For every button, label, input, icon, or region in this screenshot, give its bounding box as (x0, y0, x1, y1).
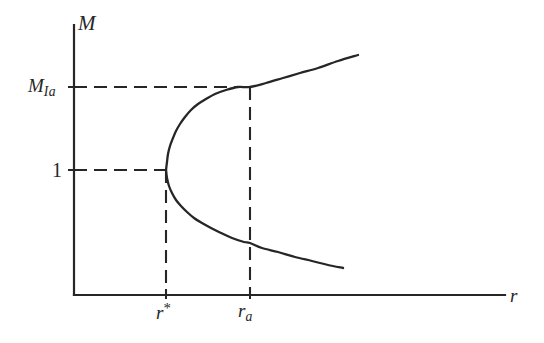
plot-canvas (0, 0, 544, 343)
x-axis-label: r (510, 286, 517, 305)
tick-base: M (28, 75, 44, 96)
y-tick-label-one: 1 (52, 160, 62, 180)
x-tick-label-r-a: ra (238, 301, 253, 324)
tick-marks (68, 87, 250, 299)
y-tick-label-M-Ia: MIa (28, 76, 56, 99)
tick-subscript: Ia (44, 84, 56, 99)
upper-branch-curve (166, 55, 358, 170)
lower-branch-curve (166, 170, 343, 268)
dashed-guide-lines (74, 87, 250, 295)
y-axis-label: M (78, 13, 96, 34)
bifurcation-diagram-figure: M r MIa 1 r* ra (0, 0, 544, 343)
x-tick-label-r-star: r* (156, 301, 171, 322)
tick-subscript: a (245, 309, 252, 324)
tick-superscript: * (163, 300, 170, 316)
